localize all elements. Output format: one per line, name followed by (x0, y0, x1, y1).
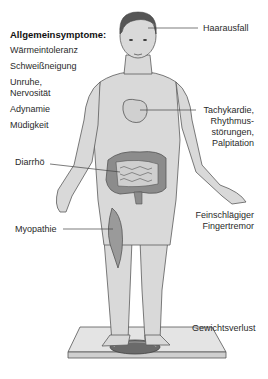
label-tremor-line: Fingertremor (195, 221, 254, 232)
label-weight-loss: Gewichtsverlust (192, 323, 256, 334)
label-tremor-line: Feinschlägiger (195, 210, 254, 221)
label-heart-line: Tachykardie, (203, 105, 254, 116)
label-heart-line: Palpitation (203, 138, 254, 149)
heart-icon (123, 99, 147, 122)
symptom-restlessness: Unruhe, (10, 77, 106, 88)
symptom-adynamia: Adynamie (10, 104, 106, 115)
symptom-nervousness: Nervosität (10, 88, 106, 99)
general-symptoms: Allgemeinsymptome: Wärmeintoleranz Schwe… (10, 29, 106, 131)
symptom-fatigue: Müdigkeit (10, 120, 106, 131)
label-tremor: Feinschlägiger Fingertremor (195, 210, 254, 232)
general-symptoms-title: Allgemeinsymptome: (10, 29, 106, 40)
label-myopathy: Myopathie (15, 224, 57, 235)
symptom-sweating: Schweißneigung (10, 61, 106, 72)
label-heart: Tachykardie, Rhythmus- störungen, Palpit… (203, 105, 254, 149)
label-diarrhea: Diarrhö (15, 157, 45, 168)
label-heart-line: störungen, (203, 127, 254, 138)
symptom-heat-intolerance: Wärmeintoleranz (10, 45, 106, 56)
label-hair-loss: Haarausfall (203, 23, 249, 34)
label-heart-line: Rhythmus- (203, 116, 254, 127)
